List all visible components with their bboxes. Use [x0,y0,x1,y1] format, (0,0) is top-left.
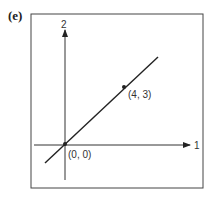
point-origin [63,142,67,146]
point-4-3 [122,85,126,89]
y-axis-label: 2 [61,19,67,30]
diagram-canvas: 1 2 (0, 0) (4, 3) [0,0,211,197]
point-label-origin: (0, 0) [68,149,91,160]
point-label-4-3: (4, 3) [128,89,151,100]
x-axis-label: 1 [194,140,200,151]
data-line [45,57,158,163]
frame-border [31,14,203,188]
